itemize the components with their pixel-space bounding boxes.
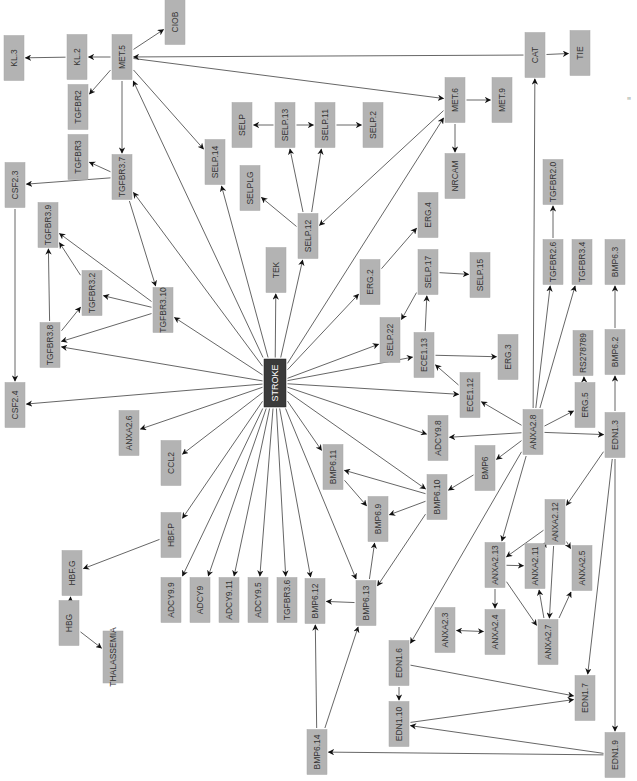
node-label: SELP [237,114,247,136]
node-label: ERG.4 [423,202,433,228]
node-bmp6-14[interactable]: BMP6.14 [307,730,327,775]
node-met-5[interactable]: MET.5 [112,35,132,80]
node-kl-2[interactable]: KL.2 [67,35,87,80]
node-adcy9-5[interactable]: ADCY9.5 [248,578,268,623]
node-kl-3[interactable]: KL.3 [4,36,24,81]
node-erg-4[interactable]: ERG.4 [418,193,438,238]
node-selp[interactable]: SELP [232,103,252,148]
node-anxa2-5[interactable]: ANXA2.5 [572,546,592,591]
node-selp-22[interactable]: SELP.22 [380,318,400,363]
node-ece1-12[interactable]: ECE1.12 [460,373,480,418]
node-edn1-6[interactable]: EDN1.6 [389,641,409,686]
node-selp-12[interactable]: SELP.12 [298,214,318,259]
node-tgfbr3[interactable]: TGFBR3 [68,135,88,180]
node-tgfbr3-8[interactable]: TGFBR3.8 [40,323,60,368]
node-label: MET.6 [450,88,460,112]
node-tgfbr2-6[interactable]: TGFBR2.6 [543,240,563,285]
edge-hbf-p-to-hbf-g [84,539,160,568]
node-bmp6-13[interactable]: BMP6.13 [356,581,376,626]
node-tgfbr3-4[interactable]: TGFBR3.4 [572,240,592,285]
edge-stroke-to-erg-2 [288,294,359,369]
node-tgfbr3-10[interactable]: TGFBR3.10 [153,287,173,333]
node-label: ADCY9.5 [253,582,263,618]
node-bmp6[interactable]: BMP6 [475,446,495,491]
edge-edn1-3-to-anxa2-12 [567,452,604,506]
node-tgfbr3-6[interactable]: TGFBR3.6 [277,578,297,623]
node-erg-5[interactable]: ERG.5 [575,383,595,428]
node-label: ADCY9 [195,586,205,615]
edge-stroke-to-bmp6-13 [286,409,357,580]
edge-bmp6-13-to-bmp6-12 [327,601,355,602]
node-erg-3[interactable]: ERG.3 [498,335,518,380]
node-erg-2[interactable]: ERG.2 [360,260,380,305]
node-selp-11[interactable]: SELP.11 [315,103,335,148]
edge-anxa2-8-to-ece1-12 [482,402,522,425]
node-tek[interactable]: TEK [266,248,286,293]
node-tgfbr2-0[interactable]: TGFBR2.0 [543,160,563,205]
node-selp-17[interactable]: SELP.17 [418,250,438,295]
node-tgfbr3-7[interactable]: TGFBR3.7 [112,155,132,200]
node-ciob[interactable]: CIOB [165,0,185,45]
node-bmp6-10[interactable]: BMP6.10 [427,475,447,520]
node-bmp6-9[interactable]: BMP6.9 [368,497,388,542]
node-rs278789[interactable]: RS278789 [573,331,593,376]
node-bmp6-3[interactable]: BMP6.3 [605,240,625,285]
node-anxa2-12[interactable]: ANXA2.12 [545,500,565,545]
node-label: TGFBR3.10 [158,287,168,333]
node-hbg[interactable]: HBG [59,601,79,646]
node-label: RS278789 [578,333,588,373]
node-bmp6-11[interactable]: BMP6.11 [323,445,343,490]
node-anxa2-4[interactable]: ANXA2.4 [485,610,505,655]
node-adcy9-8[interactable]: ADCY9.8 [428,416,448,461]
node-label: NRCAM [450,160,460,191]
node-tgfbr2[interactable]: TGFBR2 [68,85,88,130]
node-label: BMP6.12 [310,583,320,618]
node-anxa2-13[interactable]: ANXA2.13 [485,543,505,588]
edge-stroke-to-selp-22 [288,344,379,378]
node-label: KL.3 [9,49,19,67]
node-label: ADCY9.9 [166,582,176,618]
node-thalassemia[interactable]: THALASSEMIA [103,627,123,687]
edge-met-5-to-tgfbr2 [90,70,111,94]
node-edn1-7[interactable]: EDN1.7 [575,676,595,721]
node-hbf-p[interactable]: HBF.P [161,513,181,558]
node-cat[interactable]: CAT [525,33,545,78]
node-adcy9-11[interactable]: ADCY9.11 [219,578,239,623]
node-ccl2[interactable]: CCL2 [161,441,181,486]
node-anxa2-7[interactable]: ANXA2.7 [538,620,558,665]
node-label: ANXA2.13 [490,545,500,585]
node-selp-15[interactable]: SELP.15 [470,253,490,298]
node-selp-2[interactable]: SELP.2 [363,103,383,148]
node-adcy9-9[interactable]: ADCY9.9 [161,578,181,623]
node-met-6[interactable]: MET.6 [445,78,465,123]
node-csf2-3[interactable]: CSF2.3 [5,163,25,208]
node-met-9[interactable]: MET.9 [492,78,512,123]
node-selplg[interactable]: SELPLG [240,166,260,211]
node-tgfbr3-9[interactable]: TGFBR3.9 [38,203,58,248]
node-selp-13[interactable]: SELP.13 [275,103,295,148]
node-ece1-13[interactable]: ECE1.13 [414,333,434,378]
node-edn1-9[interactable]: EDN1.9 [605,733,625,778]
node-selp-14[interactable]: SELP.14 [205,140,225,185]
node-edn1-3[interactable]: EDN1.3 [605,413,625,458]
node-nrcam[interactable]: NRCAM [445,154,465,199]
node-label: BMP6.10 [432,479,442,514]
edge-ece1-12-to-ece1-13 [436,365,459,385]
node-anxa2-6[interactable]: ANXA2.6 [119,411,139,456]
edge-stroke-to-ccl2 [183,393,263,455]
node-csf2-4[interactable]: CSF2.4 [5,383,25,428]
node-tie[interactable]: TIE [570,31,590,76]
edge-anxa2-8-to-adcy9-8 [450,433,522,438]
node-bmp6-2[interactable]: BMP6.2 [605,330,625,375]
node-label: ECE1.13 [419,338,429,372]
node-hbf-g[interactable]: HBF.G [62,551,82,596]
node-bmp6-12[interactable]: BMP6.12 [305,579,325,624]
node-tgfbr3-2[interactable]: TGFBR3.2 [82,271,102,316]
node-label: BMP6.2 [610,337,620,368]
node-stroke[interactable]: STROKE [264,359,286,407]
node-anxa2-11[interactable]: ANXA2.11 [525,544,545,589]
node-anxa2-8[interactable]: ANXA2.8 [523,410,543,455]
node-adcy9[interactable]: ADCY9 [190,578,210,623]
node-edn1-10[interactable]: EDN1.10 [389,702,409,747]
node-anxa2-3[interactable]: ANXA2.3 [435,608,455,653]
